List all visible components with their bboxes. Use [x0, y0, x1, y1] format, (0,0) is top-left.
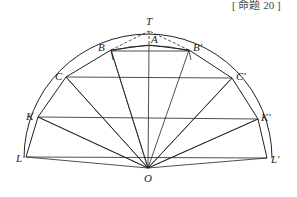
chord-ll2 — [26, 157, 267, 158]
chord-kk2 — [38, 117, 258, 119]
label-c-prime: C′ — [236, 70, 246, 82]
label-l: L — [15, 152, 22, 164]
label-k-prime: K′ — [260, 111, 271, 123]
radii — [26, 45, 267, 168]
label-o: O — [144, 172, 152, 184]
inner-arc-ba — [111, 46, 189, 52]
label-b: B — [98, 41, 105, 53]
label-b-prime: B′ — [193, 41, 203, 53]
label-l-prime: L′ — [270, 153, 280, 165]
label-a: A — [150, 33, 158, 45]
label-t: T — [146, 15, 153, 27]
label-k: K — [25, 110, 34, 122]
geometry-figure: [ 命题 20 ] T A B B′ C C′ K K′ L L′ — [0, 0, 297, 197]
inscribed-polygon — [26, 45, 267, 158]
figure-caption: [ 命题 20 ] — [232, 0, 281, 11]
label-c: C — [55, 70, 63, 82]
